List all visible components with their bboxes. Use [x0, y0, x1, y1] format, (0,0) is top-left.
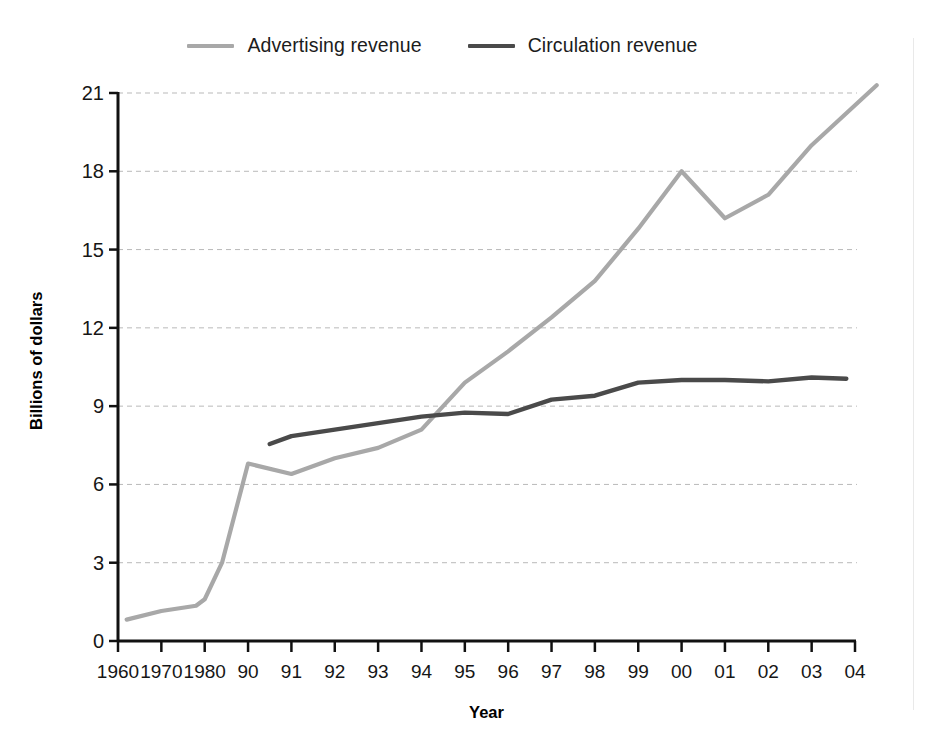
x-tick-label-00: 00	[671, 661, 692, 682]
x-tick-label-01: 01	[714, 661, 735, 682]
series-line-advertising-revenue	[127, 85, 877, 619]
page-margin-rule	[913, 38, 914, 710]
x-axis-title: Year	[469, 703, 504, 721]
x-tick-label-98: 98	[584, 661, 605, 682]
x-tick-label-02: 02	[758, 661, 779, 682]
y-tick-label-18: 18	[82, 160, 104, 182]
x-tick-label-90: 90	[237, 661, 258, 682]
series-line-circulation-revenue	[270, 377, 847, 444]
x-tick-label-1980: 1980	[184, 661, 226, 682]
y-tick-label-21: 21	[82, 82, 104, 104]
x-tick-label-97: 97	[541, 661, 562, 682]
y-tick-label-9: 9	[93, 395, 104, 417]
x-tick-label-1970: 1970	[140, 661, 182, 682]
y-tick-label-3: 3	[93, 552, 104, 574]
y-tick-label-15: 15	[82, 239, 104, 261]
x-tick-label-93: 93	[368, 661, 389, 682]
y-tick-label-0: 0	[93, 630, 104, 652]
chart-canvas: 0369121518211960197019809091929394959697…	[0, 0, 927, 742]
x-tick-label-99: 99	[628, 661, 649, 682]
y-axis-title: Billions of dollars	[27, 292, 45, 430]
y-tick-label-12: 12	[82, 317, 104, 339]
x-tick-label-95: 95	[454, 661, 475, 682]
chart-figure: Advertising revenue Circulation revenue …	[0, 0, 927, 742]
x-tick-label-1960: 1960	[97, 661, 139, 682]
x-tick-label-96: 96	[498, 661, 519, 682]
x-tick-label-04: 04	[844, 661, 866, 682]
x-tick-label-94: 94	[411, 661, 433, 682]
y-tick-label-6: 6	[93, 473, 104, 495]
plot-area: 0369121518211960197019809091929394959697…	[0, 0, 927, 742]
x-tick-label-91: 91	[281, 661, 302, 682]
x-tick-label-03: 03	[801, 661, 822, 682]
x-tick-label-92: 92	[324, 661, 345, 682]
